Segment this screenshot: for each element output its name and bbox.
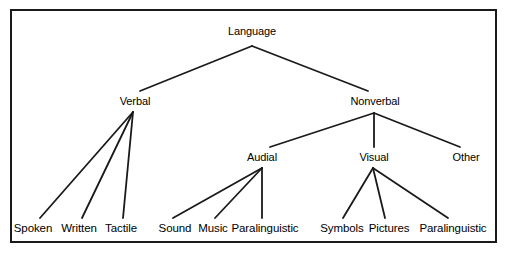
diagram-canvas: LanguageVerbalNonverbalAudialVisualOther… [0, 0, 509, 260]
tree-edge-visual-to-para-visual [373, 168, 448, 218]
tree-edge-language-to-nonverbal [252, 46, 368, 91]
tree-node-sound: Sound [159, 222, 192, 234]
tree-node-language: Language [228, 25, 276, 37]
tree-node-tactile: Tactile [105, 222, 137, 234]
tree-edge-verbal-to-spoken [40, 112, 133, 218]
tree-node-spoken: Spoken [14, 222, 52, 234]
tree-edge-nonverbal-to-other [374, 113, 460, 147]
tree-node-audial: Audial [247, 151, 277, 163]
tree-edges-layer [0, 0, 509, 260]
tree-edge-visual-to-symbols [343, 168, 373, 218]
tree-node-nonverbal: Nonverbal [350, 95, 399, 107]
tree-node-verbal: Verbal [120, 95, 151, 107]
tree-edge-nonverbal-to-audial [270, 113, 374, 147]
tree-node-visual: Visual [359, 151, 388, 163]
tree-node-para-visual: Paralinguistic [420, 222, 487, 234]
tree-node-symbols: Symbols [320, 222, 363, 234]
tree-node-written: Written [61, 222, 97, 234]
tree-node-para-audial: Paralinguistic [232, 222, 299, 234]
tree-node-music: Music [198, 222, 228, 234]
tree-node-pictures: Pictures [369, 222, 410, 234]
tree-edge-language-to-verbal [140, 46, 252, 91]
tree-node-other: Other [452, 151, 479, 163]
tree-edge-audial-to-sound [173, 168, 262, 218]
tree-edge-audial-to-music [215, 168, 262, 218]
